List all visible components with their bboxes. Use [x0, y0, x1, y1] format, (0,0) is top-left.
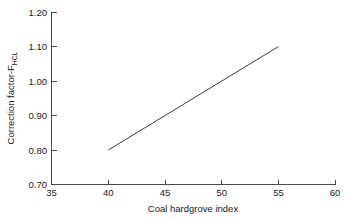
y-tick-label: 1.20	[29, 7, 48, 18]
y-tick-marks	[52, 13, 57, 185]
y-axis-title-group: Correction factor-FHCL	[5, 51, 18, 144]
y-tick-label: 1.00	[29, 76, 48, 87]
x-tick-label: 55	[273, 187, 284, 198]
y-tick-label: 0.80	[29, 145, 48, 156]
y-axis-title: Correction factor-FHCL	[5, 51, 18, 144]
x-axis-title: Coal hardgrove index	[148, 203, 239, 214]
y-axis-title-main: Correction factor-F	[5, 65, 16, 144]
x-tick-label: 35	[46, 187, 57, 198]
y-axis-title-subscript: HCL	[11, 51, 18, 65]
data-line-correction-factor	[108, 47, 278, 151]
line-chart: 0.70 0.80 0.90 1.00 1.10 1.20 35 40 45 5…	[0, 0, 347, 220]
x-tick-label: 60	[330, 187, 341, 198]
y-tick-label: 0.70	[29, 179, 48, 190]
chart-figure: 0.70 0.80 0.90 1.00 1.10 1.20 35 40 45 5…	[0, 0, 347, 220]
y-tick-label: 1.10	[29, 41, 48, 52]
y-tick-label: 0.90	[29, 110, 48, 121]
x-tick-label: 50	[217, 187, 228, 198]
y-tick-labels: 0.70 0.80 0.90 1.00 1.10 1.20	[29, 7, 48, 190]
x-tick-marks	[52, 180, 336, 185]
x-tick-label: 40	[103, 187, 114, 198]
x-tick-labels: 35 40 45 50 55 60	[46, 187, 340, 198]
x-tick-label: 45	[160, 187, 171, 198]
